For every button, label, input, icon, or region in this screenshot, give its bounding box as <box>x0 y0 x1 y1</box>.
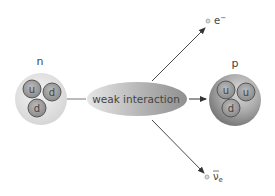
quark-u: u <box>23 80 41 98</box>
antineutrino: νe <box>205 171 223 184</box>
neutron-body <box>15 73 67 125</box>
quark-d: d <box>222 99 240 117</box>
svg-text:d: d <box>228 103 234 114</box>
arrow-to-antineutrino <box>152 120 204 173</box>
quark-u: u <box>217 81 235 99</box>
weak-interaction-label: weak interaction <box>92 93 180 105</box>
proton: p u u d <box>209 57 261 126</box>
electron-label: e− <box>214 14 226 26</box>
quark-d: d <box>28 99 46 117</box>
svg-text:u: u <box>243 87 249 98</box>
svg-text:d: d <box>34 103 40 114</box>
electron: e− <box>206 14 226 26</box>
svg-text:d: d <box>49 87 55 98</box>
arrow-to-electron <box>152 28 205 81</box>
weak-interaction: weak interaction <box>87 82 187 116</box>
quark-d: d <box>43 83 61 101</box>
antineutrino-label: νe <box>213 171 223 184</box>
svg-text:u: u <box>29 84 35 95</box>
quark-u: u <box>237 83 255 101</box>
proton-label: p <box>232 57 239 70</box>
weak-interaction-diagram: n u d d weak interaction p u u <box>0 0 275 196</box>
svg-text:u: u <box>223 85 229 96</box>
antineutrino-dot <box>205 175 209 179</box>
neutron: n u d d <box>15 55 67 125</box>
electron-dot <box>206 19 210 23</box>
neutron-label: n <box>37 55 44 68</box>
